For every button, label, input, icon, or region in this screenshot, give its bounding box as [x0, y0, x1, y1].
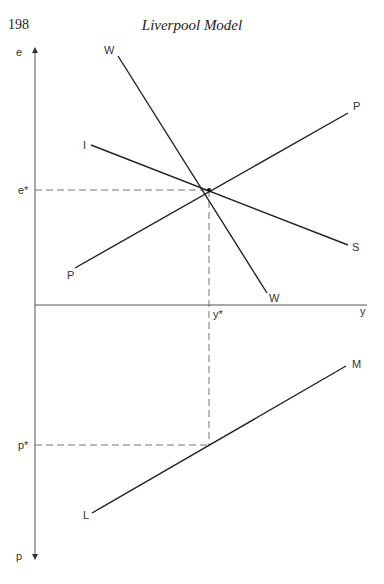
axis-label-e: e [16, 46, 22, 58]
label-y-star: y* [213, 308, 224, 320]
equilibrium-point [207, 188, 211, 192]
label-s: S [352, 241, 359, 253]
label-p-right: P [353, 100, 360, 112]
label-p-star: p* [18, 439, 29, 451]
liverpool-model-diagram: e p y e* y* p* W W I S P P L M [0, 0, 384, 584]
axis-label-y: y [360, 305, 366, 317]
label-l: L [83, 509, 89, 521]
label-e-star: e* [18, 184, 29, 196]
axis-label-p: p [16, 550, 22, 562]
label-p-left: P [67, 269, 74, 281]
label-m: M [352, 358, 361, 370]
pp-curve [75, 113, 348, 268]
label-w-bottom: W [269, 292, 280, 304]
lm-curve [92, 366, 346, 513]
ww-curve [118, 56, 267, 293]
label-i: I [83, 139, 86, 151]
is-curve [91, 145, 348, 245]
label-w-top: W [104, 44, 115, 56]
